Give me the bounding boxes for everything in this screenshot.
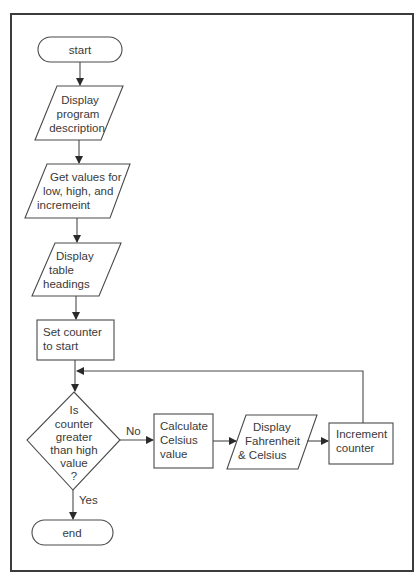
loop-back-line [77, 371, 363, 423]
svg-text:than high: than high [50, 444, 97, 456]
svg-text:Calculate: Calculate [160, 420, 208, 432]
svg-text:value: value [160, 448, 188, 460]
yes-label: Yes [79, 494, 98, 506]
svg-text:program: program [57, 108, 100, 120]
increment-counter-process: Increment counter [329, 423, 393, 464]
svg-text:incremeint: incremeint [37, 199, 91, 211]
svg-text:Display: Display [253, 421, 291, 433]
start-label: start [69, 44, 92, 56]
display-program-description-io: Display program description [35, 86, 123, 140]
set-counter-process: Set counter to start [37, 320, 114, 360]
svg-text:greater: greater [56, 431, 93, 443]
svg-text:Celsius: Celsius [160, 434, 198, 446]
svg-text:Set counter: Set counter [43, 326, 102, 338]
svg-text:counter: counter [55, 418, 94, 430]
svg-text:Fahrenheit: Fahrenheit [245, 435, 301, 447]
get-values-io: Get values for low, high, and incremeint [25, 164, 130, 218]
svg-text:headings: headings [43, 278, 90, 290]
svg-text:to start: to start [43, 340, 79, 352]
svg-text:Increment: Increment [336, 428, 388, 440]
decision-diamond: Is counter greater than high value ? [27, 392, 120, 490]
svg-text:low, high, and: low, high, and [43, 185, 113, 197]
svg-text:Is: Is [70, 404, 79, 416]
flowchart-canvas: start Display program description Get va… [0, 0, 418, 576]
start-terminal: start [38, 37, 122, 62]
svg-text:Display: Display [61, 94, 99, 106]
display-fahrenheit-celsius-io: Display Fahrenheit & Celsius [227, 415, 317, 469]
calculate-celsius-process: Calculate Celsius value [154, 414, 213, 468]
svg-text:Get values for: Get values for [50, 171, 122, 183]
no-label: No [126, 425, 141, 437]
svg-text:?: ? [71, 470, 77, 482]
end-terminal: end [32, 520, 113, 545]
svg-text:Display: Display [56, 250, 94, 262]
svg-text:table: table [49, 264, 74, 276]
end-label: end [62, 527, 81, 539]
svg-text:value: value [60, 457, 88, 469]
svg-text:description: description [49, 122, 105, 134]
svg-text:& Celsius: & Celsius [238, 449, 287, 461]
svg-text:counter: counter [336, 442, 375, 454]
display-table-headings-io: Display table headings [32, 243, 121, 296]
